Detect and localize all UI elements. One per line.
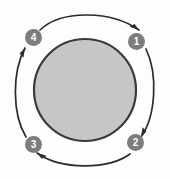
step-badge-2[interactable]: 2: [127, 134, 144, 151]
cycle-diagram-canvas: [0, 0, 170, 179]
center-circle: [34, 39, 136, 141]
arrow-step3-to-step4: [15, 48, 26, 137]
cycle-diagram: 1 2 3 4: [0, 0, 170, 179]
arrow-step4-to-step1: [40, 15, 139, 30]
step-badge-1[interactable]: 1: [128, 33, 145, 50]
step-badge-4[interactable]: 4: [25, 29, 42, 46]
arrow-step2-to-step3: [37, 153, 130, 166]
step-badge-3[interactable]: 3: [25, 136, 42, 153]
arrow-step1-to-step2: [141, 49, 154, 137]
